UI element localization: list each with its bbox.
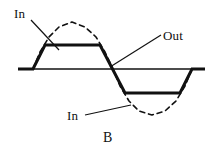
label-in-bottom: In xyxy=(67,109,78,122)
out-leader-line xyxy=(110,35,161,67)
waveform-figure: In Out In B xyxy=(0,0,220,156)
panel-label-b: B xyxy=(103,131,113,145)
in-bottom-leader-line xyxy=(85,105,131,115)
label-in-top: In xyxy=(14,7,25,20)
label-out: Out xyxy=(163,29,183,42)
